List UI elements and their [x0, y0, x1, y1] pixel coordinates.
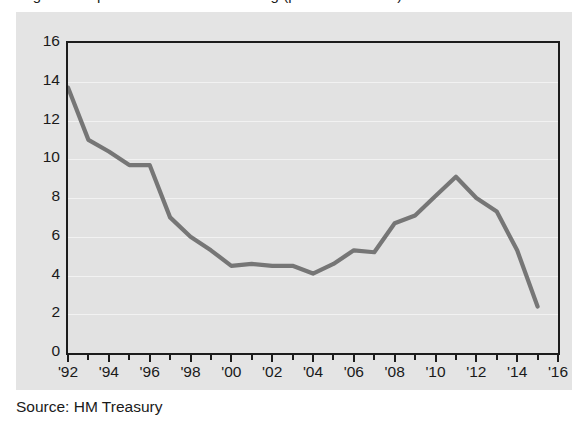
- x-axis-minor-tick: [251, 355, 253, 360]
- x-axis-tick-label: '96: [140, 364, 160, 380]
- figure-title: Figure: UK public sector net borrowing (…: [20, 0, 402, 3]
- x-axis-minor-tick: [128, 355, 130, 360]
- x-axis-major-tick: [394, 355, 396, 362]
- x-axis-tick-label: '02: [262, 364, 282, 380]
- y-axis-tick-label: 2: [16, 305, 60, 321]
- x-axis-tick-label: '92: [58, 364, 78, 380]
- x-axis-major-tick: [516, 355, 518, 362]
- y-axis-tick-label: 14: [16, 72, 60, 88]
- x-axis-major-tick: [435, 355, 437, 362]
- x-axis-tick-label: '10: [425, 364, 445, 380]
- x-axis-minor-tick: [496, 355, 498, 360]
- y-axis-tick-label: 8: [16, 188, 60, 204]
- x-axis-major-tick: [557, 355, 559, 362]
- y-axis-tick-label: 12: [16, 111, 60, 127]
- y-axis-tick-label: 16: [16, 33, 60, 49]
- x-axis-minor-tick: [87, 355, 89, 360]
- data-line-svg: [68, 43, 558, 353]
- x-axis-major-tick: [108, 355, 110, 362]
- x-axis-minor-tick: [169, 355, 171, 360]
- x-axis-tick-label: '98: [180, 364, 200, 380]
- y-axis: 0246810121416: [16, 41, 60, 355]
- x-axis-minor-tick: [332, 355, 334, 360]
- x-axis-major-tick: [190, 355, 192, 362]
- x-axis-tick-label: '08: [385, 364, 405, 380]
- chart-card: 0246810121416 '92'94'96'98'00'02'04'06'0…: [16, 12, 572, 390]
- source-note: Source: HM Treasury: [16, 398, 162, 416]
- x-axis-tick-label: '00: [221, 364, 241, 380]
- y-axis-tick-label: 4: [16, 266, 60, 282]
- figure-title-strip: Figure: UK public sector net borrowing (…: [0, 0, 588, 11]
- x-axis: '92'94'96'98'00'02'04'06'08'10'12'14'16: [66, 355, 560, 389]
- x-axis-minor-tick: [292, 355, 294, 360]
- x-axis-major-tick: [271, 355, 273, 362]
- y-axis-tick-label: 10: [16, 150, 60, 166]
- x-axis-minor-tick: [537, 355, 539, 360]
- data-series-line: [68, 88, 538, 307]
- x-axis-minor-tick: [455, 355, 457, 360]
- x-axis-major-tick: [149, 355, 151, 362]
- x-axis-tick-label: '16: [548, 364, 568, 380]
- plot-area: [66, 41, 560, 355]
- x-axis-major-tick: [230, 355, 232, 362]
- x-axis-major-tick: [353, 355, 355, 362]
- figure-container: Figure: UK public sector net borrowing (…: [0, 0, 588, 426]
- x-axis-tick-label: '12: [466, 364, 486, 380]
- x-axis-tick-label: '06: [344, 364, 364, 380]
- x-axis-major-tick: [475, 355, 477, 362]
- x-axis-tick-label: '04: [303, 364, 323, 380]
- y-axis-tick-label: 0: [16, 343, 60, 359]
- x-axis-tick-label: '14: [507, 364, 527, 380]
- x-axis-major-tick: [312, 355, 314, 362]
- y-axis-tick-label: 6: [16, 227, 60, 243]
- x-axis-minor-tick: [414, 355, 416, 360]
- x-axis-major-tick: [67, 355, 69, 362]
- x-axis-minor-tick: [373, 355, 375, 360]
- x-axis-tick-label: '94: [99, 364, 119, 380]
- x-axis-minor-tick: [210, 355, 212, 360]
